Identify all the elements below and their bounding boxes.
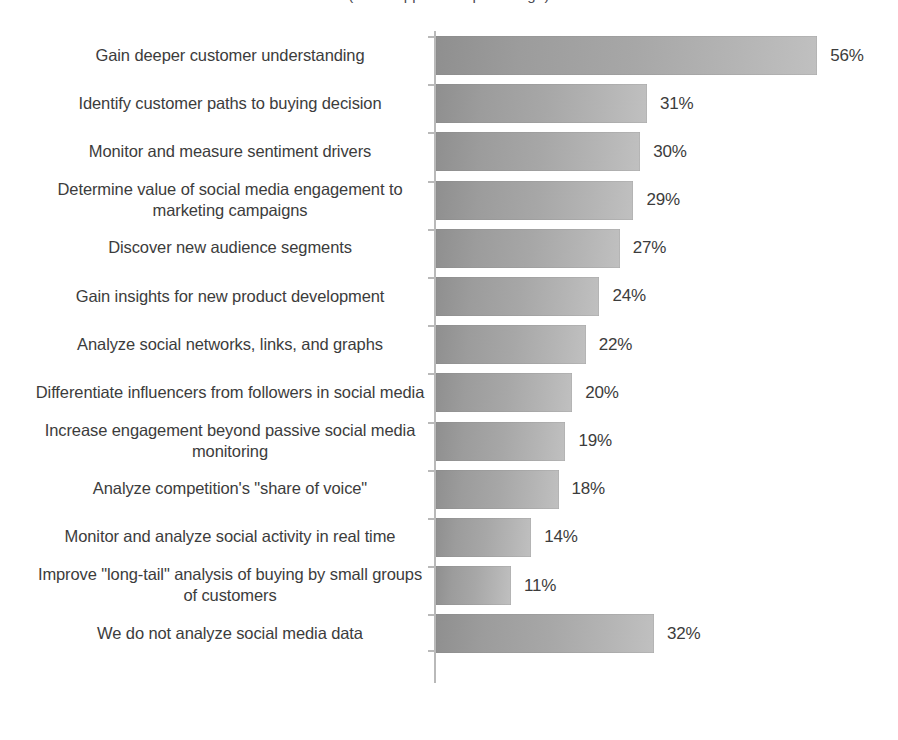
bar-value-label: 11% <box>524 576 556 596</box>
bar-rows: Gain deeper customer understanding56%Ide… <box>0 31 898 657</box>
bar-row: Identify customer paths to buying decisi… <box>0 79 898 127</box>
bar[interactable] <box>436 566 511 605</box>
bar[interactable] <box>436 422 565 461</box>
bar-container[interactable]: 24% <box>436 277 646 316</box>
bar-container[interactable]: 29% <box>436 181 680 220</box>
bar[interactable] <box>436 277 599 316</box>
bar-row: Improve "long-tail" analysis of buying b… <box>0 561 898 609</box>
bar-value-label: 24% <box>612 286 645 306</box>
bar-row: Discover new audience segments27% <box>0 224 898 272</box>
bar-container[interactable]: 27% <box>436 229 666 268</box>
category-label: Monitor and analyze social activity in r… <box>30 513 430 561</box>
bar[interactable] <box>436 229 620 268</box>
category-label: Differentiate influencers from followers… <box>30 368 430 416</box>
bar-row: Determine value of social media engageme… <box>0 176 898 224</box>
category-label: Analyze social networks, links, and grap… <box>30 320 430 368</box>
bar-row: Increase engagement beyond passive socia… <box>0 417 898 465</box>
bar[interactable] <box>436 325 586 364</box>
bar-container[interactable]: 30% <box>436 132 687 171</box>
category-label: Analyze competition's "share of voice" <box>30 465 430 513</box>
bar-row: We do not analyze social media data32% <box>0 609 898 657</box>
category-label: Increase engagement beyond passive socia… <box>30 417 430 465</box>
bar-container[interactable]: 20% <box>436 373 619 412</box>
category-label: Gain deeper customer understanding <box>30 31 430 79</box>
bar[interactable] <box>436 518 531 557</box>
bar-row: Monitor and analyze social activity in r… <box>0 513 898 561</box>
bar-row: Analyze social networks, links, and grap… <box>0 320 898 368</box>
bar-value-label: 32% <box>667 624 700 644</box>
category-label: Improve "long-tail" analysis of buying b… <box>30 561 430 609</box>
bar-container[interactable]: 22% <box>436 325 632 364</box>
bar[interactable] <box>436 84 647 123</box>
category-label: We do not analyze social media data <box>30 609 430 657</box>
bar-value-label: 27% <box>633 238 666 258</box>
bar-value-label: 19% <box>578 431 611 451</box>
bar-row: Analyze competition's "share of voice"18… <box>0 465 898 513</box>
bar[interactable] <box>436 614 654 653</box>
bar[interactable] <box>436 181 633 220</box>
bar-value-label: 31% <box>660 94 693 114</box>
bar-value-label: 20% <box>585 383 618 403</box>
plot-area: Gain deeper customer understanding56%Ide… <box>0 31 898 703</box>
category-label: Discover new audience segments <box>30 224 430 272</box>
bar-container[interactable]: 18% <box>436 470 605 509</box>
bar[interactable] <box>436 373 572 412</box>
bar-value-label: 14% <box>544 527 577 547</box>
category-label: Gain insights for new product developmen… <box>30 272 430 320</box>
bar-value-label: 22% <box>599 335 632 355</box>
bar-value-label: 56% <box>830 46 863 66</box>
chart-title-text: (title cropped at top of image) <box>348 0 549 3</box>
bar-chart: (title cropped at top of image) Gain dee… <box>0 0 898 740</box>
bar-row: Gain insights for new product developmen… <box>0 272 898 320</box>
bar-row: Gain deeper customer understanding56% <box>0 31 898 79</box>
bar[interactable] <box>436 36 817 75</box>
bar-value-label: 30% <box>653 142 686 162</box>
bar[interactable] <box>436 132 640 171</box>
chart-title-cropped: (title cropped at top of image) <box>0 0 898 9</box>
bar-value-label: 29% <box>646 190 679 210</box>
bar-container[interactable]: 56% <box>436 36 864 75</box>
category-label: Monitor and measure sentiment drivers <box>30 127 430 175</box>
bar-container[interactable]: 32% <box>436 614 700 653</box>
bar-container[interactable]: 11% <box>436 566 556 605</box>
bar-container[interactable]: 31% <box>436 84 694 123</box>
bar-container[interactable]: 19% <box>436 422 612 461</box>
bar[interactable] <box>436 470 559 509</box>
bar-container[interactable]: 14% <box>436 518 578 557</box>
bar-value-label: 18% <box>572 479 605 499</box>
category-label: Identify customer paths to buying decisi… <box>30 79 430 127</box>
bar-row: Monitor and measure sentiment drivers30% <box>0 127 898 175</box>
bar-row: Differentiate influencers from followers… <box>0 368 898 416</box>
category-label: Determine value of social media engageme… <box>30 176 430 224</box>
